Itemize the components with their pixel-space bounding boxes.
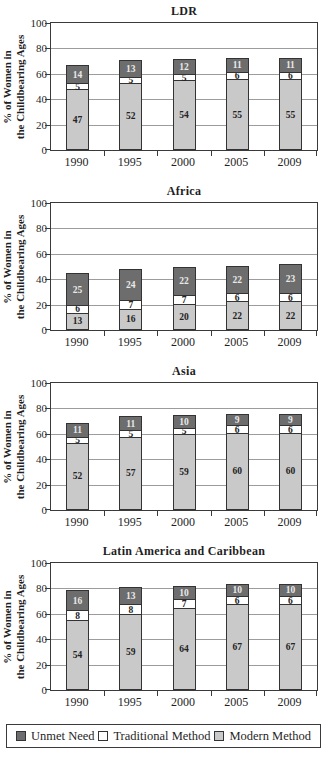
x-category-label: 2005 [216,335,256,350]
bar-segment-modern-2000: 59 [173,434,196,510]
chart-panel-2: Asia% of Women inthe Childbearing Ages02… [0,364,326,528]
bar-segment-modern-1990: 54 [66,620,89,690]
bar-value-label: 13 [126,65,136,73]
bar-segment-unmet-1990: 25 [66,273,89,306]
x-category-label: 2000 [163,695,203,710]
x-category-label: 2005 [216,695,256,710]
y-tick-mark [45,254,50,255]
chart-title: LDR [50,4,318,19]
bar-value-label: 11 [286,61,295,69]
chart-body: % of Women inthe Childbearing Ages020406… [0,382,326,511]
bar-segment-modern-2005: 60 [226,433,249,510]
y-tick-mark [45,563,50,564]
y-tick-mark [45,485,50,486]
y-tick-mark [45,588,50,589]
y-tick-label: 100 [17,378,47,389]
bar-value-label: 64 [179,645,189,653]
x-category-label: 1995 [110,335,150,350]
bar-value-label: 52 [126,112,136,120]
x-category-label: 2009 [269,515,309,530]
bar-segment-unmet-2005: 11 [226,58,249,73]
x-category-label: 1990 [57,335,97,350]
x-category-label: 2009 [269,155,309,170]
y-tick-label: 0 [17,325,47,336]
bar-value-label: 6 [288,294,293,302]
bar-segment-modern-2005: 22 [226,301,249,330]
bar-segment-traditional-2000: 5 [173,74,196,81]
bar-value-label: 6 [288,597,293,605]
legend-label: Traditional Method [113,729,210,744]
y-tick-mark [45,228,50,229]
chart-title: Latin America and Caribbean [50,544,318,559]
y-tick-mark [45,434,50,435]
y-tick-mark [45,665,50,666]
y-axis-label: % of Women inthe Childbearing Ages [0,202,28,331]
y-tick-mark [45,408,50,409]
bar-segment-unmet-1990: 14 [66,65,89,84]
bar-segment-traditional-2009: 6 [279,425,302,434]
y-axis-ticks: 020406080100 [28,562,50,691]
bar-value-label: 7 [182,296,187,304]
y-tick-label: 20 [17,300,47,311]
bar-value-label: 54 [179,111,189,119]
y-axis-ticks: 020406080100 [28,22,50,151]
bar-segment-traditional-1990: 5 [66,83,89,90]
bar-segment-modern-2005: 55 [226,79,249,150]
legend-swatch-modern-icon [214,731,224,741]
legend-item-modern: Modern Method [214,729,311,744]
y-tick-label: 80 [17,43,47,54]
y-tick-mark [45,48,50,49]
bar-segment-traditional-1995: 5 [119,430,142,437]
y-tick-label: 0 [17,685,47,696]
legend: Unmet NeedTraditional MethodModern Metho… [6,724,321,748]
chart-body: % of Women inthe Childbearing Ages020406… [0,22,326,151]
y-tick-mark [45,99,50,100]
y-axis-label-line1: % of Women in [1,214,14,319]
y-axis-ticks: 020406080100 [28,202,50,331]
bar-segment-traditional-2005: 6 [226,596,249,605]
bar-value-label: 7 [182,600,187,608]
legend-item-traditional: Traditional Method [98,729,210,744]
x-axis-labels: 19901995200020052009 [50,331,318,348]
y-tick-mark [45,74,50,75]
y-tick-mark [45,614,50,615]
bar-segment-traditional-1990: 6 [66,305,89,314]
bar-segment-traditional-2000: 5 [173,428,196,435]
bar-value-label: 24 [126,281,136,289]
gridline [51,228,317,229]
bar-value-label: 6 [75,305,80,313]
x-category-label: 2009 [269,335,309,350]
bar-value-label: 47 [73,116,83,124]
y-tick-mark [45,305,50,306]
bar-segment-traditional-2009: 6 [279,293,302,302]
bar-value-label: 10 [232,586,242,594]
y-tick-label: 60 [17,69,47,80]
bar-value-label: 22 [286,312,296,320]
bar-segment-modern-1995: 59 [119,614,142,690]
bar-value-label: 55 [232,111,242,119]
bar-value-label: 52 [73,472,83,480]
chart-body: % of Women inthe Childbearing Ages020406… [0,562,326,691]
bar-segment-traditional-1995: 8 [119,604,142,615]
bar-segment-modern-2009: 55 [279,79,302,150]
bar-segment-traditional-2009: 6 [279,72,302,81]
bar-value-label: 7 [128,301,133,309]
chart-title: Asia [50,364,318,379]
bar-segment-unmet-2005: 9 [226,414,249,426]
bar-segment-modern-2009: 60 [279,433,302,510]
x-axis-labels: 19901995200020052009 [50,691,318,708]
x-category-label: 2005 [216,155,256,170]
x-category-label: 2000 [163,335,203,350]
y-tick-label: 0 [17,505,47,516]
bar-value-label: 67 [286,643,296,651]
y-tick-label: 20 [17,480,47,491]
bar-segment-modern-2000: 54 [173,80,196,150]
bar-value-label: 6 [288,72,293,80]
bar-segment-modern-1990: 13 [66,313,89,331]
y-tick-mark [45,125,50,126]
bar-segment-traditional-2009: 6 [279,596,302,605]
y-tick-label: 100 [17,558,47,569]
bar-value-label: 6 [235,426,240,434]
bar-value-label: 59 [179,468,189,476]
bar-segment-unmet-1995: 11 [119,416,142,431]
